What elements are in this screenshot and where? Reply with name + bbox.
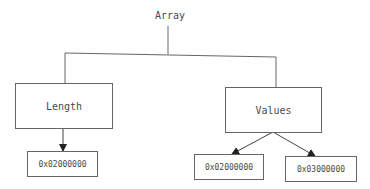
node-length: Length [15, 83, 113, 129]
values-item-0: 0x02000000 [194, 154, 264, 180]
node-values-label: Values [255, 105, 291, 116]
values-item-1: 0x03000000 [285, 156, 357, 182]
values-item-0-label: 0x02000000 [205, 163, 253, 172]
node-length-label: Length [46, 101, 82, 112]
root-node-array: Array [155, 10, 185, 21]
node-values: Values [225, 87, 322, 133]
length-item-0-label: 0x02000000 [38, 160, 86, 169]
values-item-1-label: 0x03000000 [297, 165, 345, 174]
length-item-0: 0x02000000 [27, 151, 98, 177]
